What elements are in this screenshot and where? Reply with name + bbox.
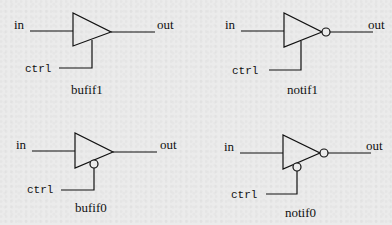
input-label: in: [225, 17, 236, 32]
control-wire: [59, 40, 92, 68]
tristate-gates-diagram: in out ctrl bufif1 in out ctrl notif1 in…: [0, 0, 392, 225]
inversion-bubble-icon: [320, 149, 328, 157]
gate-bufif0: in out ctrl bufif0: [16, 133, 177, 215]
control-label: ctrl: [27, 184, 53, 196]
input-label: in: [16, 137, 27, 152]
gate-name: bufif1: [71, 82, 103, 97]
input-label: in: [224, 139, 235, 154]
input-label: in: [14, 17, 25, 32]
active-low-bubble-icon: [90, 160, 98, 168]
output-label: out: [368, 17, 385, 32]
control-label: ctrl: [231, 189, 257, 201]
control-wire: [269, 41, 301, 70]
gate-notif0: in out ctrl notif0: [224, 135, 383, 220]
buffer-triangle-icon: [284, 13, 322, 47]
control-wire: [61, 168, 94, 190]
gate-bufif1: in out ctrl bufif1: [14, 13, 174, 97]
output-label: out: [157, 17, 174, 32]
buffer-triangle-icon: [283, 135, 320, 169]
control-label: ctrl: [232, 65, 258, 77]
gate-name: bufif0: [75, 200, 107, 215]
inversion-bubble-icon: [322, 28, 330, 36]
control-wire: [266, 171, 297, 194]
output-label: out: [160, 137, 177, 152]
gate-notif1: in out ctrl notif1: [225, 13, 385, 97]
gate-name: notif0: [285, 205, 316, 220]
active-low-bubble-icon: [293, 163, 301, 171]
output-label: out: [366, 138, 383, 153]
gate-name: notif1: [287, 82, 318, 97]
control-label: ctrl: [25, 63, 51, 75]
